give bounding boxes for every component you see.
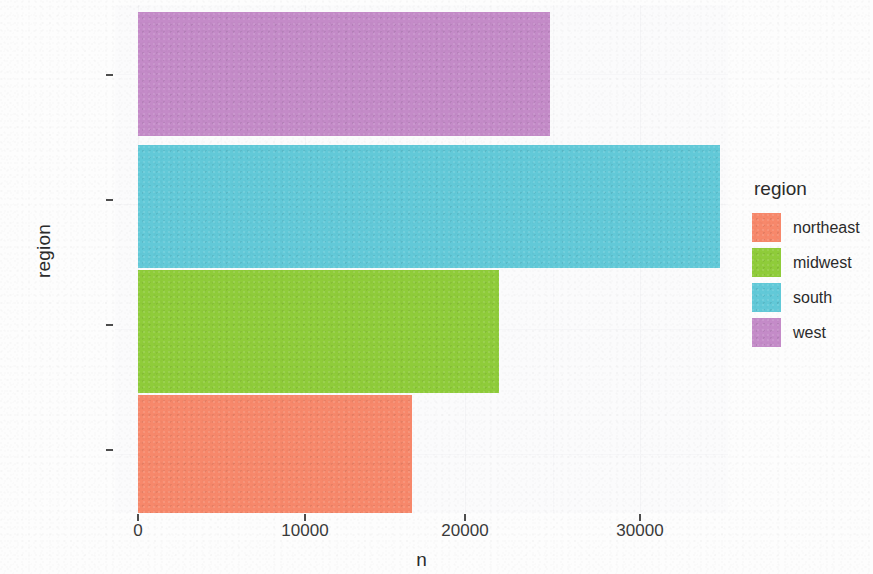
legend-label-midwest: midwest bbox=[793, 254, 852, 272]
legend-item-northeast[interactable]: northeast bbox=[752, 210, 870, 245]
legend-item-south[interactable]: south bbox=[752, 280, 870, 315]
legend-swatch-midwest bbox=[752, 248, 781, 277]
x-tick-label-30000: 30000 bbox=[580, 521, 700, 541]
bar-texture bbox=[138, 12, 550, 136]
x-tick-mark-30000 bbox=[639, 514, 641, 521]
y-tick-mark-midwest bbox=[106, 324, 113, 326]
legend-label-west: west bbox=[793, 324, 826, 342]
legend-title: region bbox=[754, 178, 870, 200]
legend-swatch-south bbox=[752, 283, 781, 312]
legend-label-south: south bbox=[793, 289, 832, 307]
legend: region northeast midwest south west bbox=[752, 178, 870, 350]
bar-northeast[interactable] bbox=[138, 395, 412, 513]
y-tick-mark-south bbox=[106, 199, 113, 201]
bar-texture bbox=[138, 270, 499, 393]
x-tick-mark-10000 bbox=[304, 514, 306, 521]
x-tick-mark-20000 bbox=[464, 514, 466, 521]
chart-figure: region west s bbox=[0, 0, 873, 574]
y-tick-mark-west bbox=[106, 74, 113, 76]
x-tick-label-10000: 10000 bbox=[245, 521, 365, 541]
bar-midwest[interactable] bbox=[138, 270, 499, 393]
legend-swatch-west bbox=[752, 318, 781, 347]
plot-panel bbox=[115, 5, 728, 513]
legend-item-west[interactable]: west bbox=[752, 315, 870, 350]
swatch-texture bbox=[752, 248, 781, 277]
x-tick-mark-0 bbox=[137, 514, 139, 521]
y-axis-title: region bbox=[33, 191, 55, 311]
x-tick-label-20000: 20000 bbox=[405, 521, 525, 541]
bar-texture bbox=[138, 395, 412, 513]
bar-texture bbox=[138, 145, 720, 268]
bar-west[interactable] bbox=[138, 12, 550, 136]
x-axis-title: n bbox=[115, 549, 728, 571]
legend-item-midwest[interactable]: midwest bbox=[752, 245, 870, 280]
swatch-texture bbox=[752, 318, 781, 347]
swatch-texture bbox=[752, 283, 781, 312]
x-tick-label-0: 0 bbox=[78, 521, 198, 541]
swatch-texture bbox=[752, 213, 781, 242]
legend-swatch-northeast bbox=[752, 213, 781, 242]
y-tick-mark-northeast bbox=[106, 449, 113, 451]
legend-label-northeast: northeast bbox=[793, 219, 860, 237]
bar-south[interactable] bbox=[138, 145, 720, 268]
